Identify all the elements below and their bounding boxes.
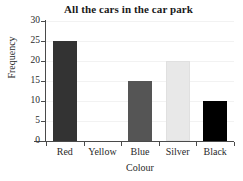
y-tick-mark xyxy=(41,81,46,82)
y-tick-label: 25 xyxy=(0,35,40,45)
y-tick-label: 30 xyxy=(0,15,40,25)
chart-title: All the cars in the car park xyxy=(0,3,243,15)
y-tick-label: 20 xyxy=(0,55,40,65)
x-tick-label-black: Black xyxy=(187,146,243,157)
bar-blue xyxy=(128,81,152,141)
plot-area xyxy=(46,21,234,141)
bar-chart: All the cars in the car park Frequency 0… xyxy=(0,0,243,181)
bar-red xyxy=(53,41,77,141)
bar-black xyxy=(203,101,227,141)
y-tick-mark xyxy=(41,61,46,62)
y-tick-label: 5 xyxy=(0,115,40,125)
y-tick-label: 10 xyxy=(0,95,40,105)
y-tick-label: 15 xyxy=(0,75,40,85)
bar-silver xyxy=(166,61,190,141)
y-tick-mark xyxy=(41,101,46,102)
y-tick-label: 0 xyxy=(0,135,40,145)
y-tick-mark xyxy=(41,21,46,22)
gridline xyxy=(46,21,234,22)
y-tick-mark xyxy=(41,41,46,42)
x-axis-line xyxy=(34,141,234,142)
x-axis-label: Colour xyxy=(46,162,234,173)
y-tick-mark xyxy=(41,121,46,122)
